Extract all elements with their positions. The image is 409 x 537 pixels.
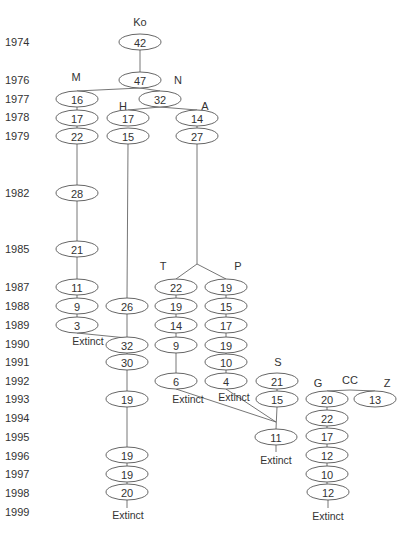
connector-line — [176, 264, 197, 279]
year-label: 1987 — [5, 281, 29, 293]
year-label: 1990 — [5, 338, 29, 350]
node-value: 9 — [74, 301, 80, 313]
population-node: 19 — [205, 337, 247, 353]
population-node: 19 — [155, 298, 197, 314]
node-value: 27 — [191, 131, 203, 143]
year-label: 1978 — [5, 111, 29, 123]
extinct-label: Extinct — [172, 393, 204, 405]
population-node: 6 — [155, 373, 197, 389]
group-label-ko: Ko — [133, 16, 146, 28]
node-value: 32 — [121, 340, 133, 352]
node-value: 21 — [271, 376, 283, 388]
node-value: 42 — [134, 37, 146, 49]
year-label: 1977 — [5, 93, 29, 105]
population-node: 10 — [306, 466, 348, 482]
node-value: 19 — [121, 469, 133, 481]
node-value: 32 — [154, 94, 166, 106]
connector-line — [276, 407, 277, 429]
population-node: 15 — [107, 128, 149, 144]
group-label-z: Z — [384, 377, 391, 389]
population-node: 32 — [106, 337, 148, 353]
population-node: 28 — [56, 185, 98, 201]
node-value: 30 — [121, 357, 133, 369]
node-value: 17 — [321, 431, 333, 443]
node-value: 17 — [122, 113, 134, 125]
node-value: 12 — [321, 450, 333, 462]
population-node: 17 — [306, 428, 348, 444]
population-node: 27 — [176, 128, 218, 144]
population-node: 20 — [306, 391, 348, 407]
population-node: 13 — [354, 391, 396, 407]
node-value: 14 — [170, 320, 182, 332]
year-label: 1982 — [5, 187, 29, 199]
population-node: 15 — [256, 391, 298, 407]
year-label: 1974 — [5, 36, 29, 48]
population-nodes: 4247321617222821119317152632301919192014… — [56, 34, 396, 500]
population-node: 22 — [155, 279, 197, 295]
node-value: 21 — [71, 244, 83, 256]
population-node: 19 — [106, 447, 148, 463]
node-value: 26 — [121, 301, 133, 313]
population-node: 16 — [56, 91, 98, 107]
population-node: 17 — [56, 110, 98, 126]
population-node: 4 — [205, 373, 247, 389]
node-value: 11 — [270, 432, 281, 444]
population-node: 15 — [205, 298, 247, 314]
population-node: 11 — [56, 279, 98, 295]
population-node: 21 — [56, 241, 98, 257]
connector-line — [197, 264, 226, 279]
population-node: 9 — [56, 298, 98, 314]
group-label-s: S — [274, 356, 281, 368]
node-value: 6 — [173, 376, 179, 388]
population-node: 14 — [155, 317, 197, 333]
node-value: 19 — [121, 450, 133, 462]
connector-line — [128, 107, 160, 110]
year-label: 1996 — [5, 450, 29, 462]
year-label: 1985 — [5, 243, 29, 255]
group-label-t: T — [160, 260, 167, 272]
population-node: 12 — [306, 447, 348, 463]
population-node: 42 — [119, 34, 161, 50]
population-node: 22 — [56, 128, 98, 144]
population-node: 19 — [205, 279, 247, 295]
node-value: 10 — [321, 469, 333, 481]
lineage-diagram: 1974197619771978197919821985198719881989… — [0, 0, 409, 537]
group-label-g: G — [314, 377, 323, 389]
population-node: 19 — [106, 391, 148, 407]
node-value: 17 — [220, 320, 232, 332]
year-axis: 1974197619771978197919821985198719881989… — [5, 36, 29, 518]
population-node: 32 — [139, 91, 181, 107]
population-node: 17 — [205, 317, 247, 333]
population-node: 9 — [155, 337, 197, 353]
node-value: 22 — [321, 413, 333, 425]
population-node: 21 — [256, 373, 298, 389]
population-node: 17 — [107, 110, 149, 126]
node-value: 28 — [71, 188, 83, 200]
population-node: 10 — [205, 354, 247, 370]
population-node: 22 — [306, 410, 348, 426]
node-value: 19 — [170, 301, 182, 313]
node-value: 19 — [220, 282, 232, 294]
year-label: 1988 — [5, 300, 29, 312]
node-value: 22 — [71, 131, 83, 143]
year-label: 1998 — [5, 487, 29, 499]
year-label: 1992 — [5, 375, 29, 387]
population-node: 26 — [106, 298, 148, 314]
node-value: 16 — [71, 94, 83, 106]
population-node: 11 — [255, 429, 297, 445]
node-value: 22 — [170, 282, 182, 294]
extinct-label: Extinct — [260, 454, 292, 466]
node-value: 13 — [369, 394, 381, 406]
population-node: 12 — [307, 484, 349, 500]
node-value: 47 — [134, 75, 146, 87]
extinct-label: Extinct — [312, 510, 344, 522]
year-label: 1979 — [5, 130, 29, 142]
connector-line — [127, 144, 128, 298]
year-label: 1976 — [5, 74, 29, 86]
extinct-label: Extinct — [218, 391, 250, 403]
node-value: 10 — [220, 357, 232, 369]
node-value: 20 — [321, 394, 333, 406]
year-label: 1997 — [5, 468, 29, 480]
node-value: 20 — [121, 487, 133, 499]
year-label: 1994 — [5, 412, 29, 424]
